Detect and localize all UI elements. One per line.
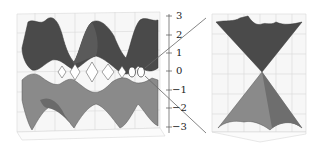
z-tick-3: 3 xyxy=(176,11,182,21)
band-structure-figure xyxy=(0,0,321,154)
z-tick-2: 2 xyxy=(176,30,182,40)
z-tick-neg2: −2 xyxy=(172,103,187,113)
z-tick-neg1: −1 xyxy=(172,85,187,95)
z-tick-neg3: −3 xyxy=(172,122,187,132)
z-tick-0: 0 xyxy=(176,66,182,76)
z-tick-1: 1 xyxy=(176,48,182,58)
z-axis xyxy=(166,14,172,133)
